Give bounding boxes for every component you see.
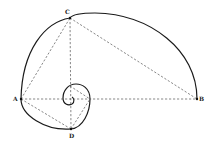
label-d: D [69,132,74,139]
point-b-marker [196,98,198,100]
label-a: A [12,95,18,102]
label-c: C [65,8,70,15]
spiral-curve [21,13,197,129]
point-a-marker [20,98,22,100]
point-d-marker [70,128,72,130]
label-b: B [199,95,204,102]
point-c-marker [69,17,71,19]
line-c-b [70,18,197,99]
spiral-diagram: A B C D [0,0,215,148]
line-c-d [70,18,71,129]
